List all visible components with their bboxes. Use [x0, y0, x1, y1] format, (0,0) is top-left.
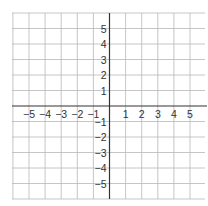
coordinate-plane: −5−4−3−2−112345 54321−1−2−3−4−5	[0, 0, 208, 206]
y-tick-label: 1	[101, 85, 107, 97]
y-tick-label: 4	[101, 38, 107, 50]
y-tick-label: −3	[95, 147, 107, 159]
coordinate-grid-svg: −5−4−3−2−112345 54321−1−2−3−4−5	[0, 0, 208, 206]
y-tick-label: 2	[101, 69, 107, 81]
y-tick-label: −2	[95, 131, 107, 143]
y-tick-label: 5	[101, 23, 107, 35]
x-axis-tick-labels: −5−4−3−2−112345	[23, 108, 193, 120]
y-tick-label: −1	[95, 116, 107, 128]
x-tick-label: −5	[23, 108, 35, 120]
x-tick-label: 2	[139, 108, 145, 120]
x-tick-label: −2	[71, 108, 83, 120]
x-tick-label: 3	[155, 108, 161, 120]
y-tick-label: −5	[95, 178, 107, 190]
x-tick-label: 1	[123, 108, 129, 120]
x-tick-label: −3	[55, 108, 67, 120]
x-tick-label: −4	[39, 108, 51, 120]
y-tick-label: 3	[101, 54, 107, 66]
x-tick-label: 5	[187, 108, 193, 120]
y-tick-label: −4	[95, 162, 107, 174]
x-tick-label: 4	[171, 108, 177, 120]
